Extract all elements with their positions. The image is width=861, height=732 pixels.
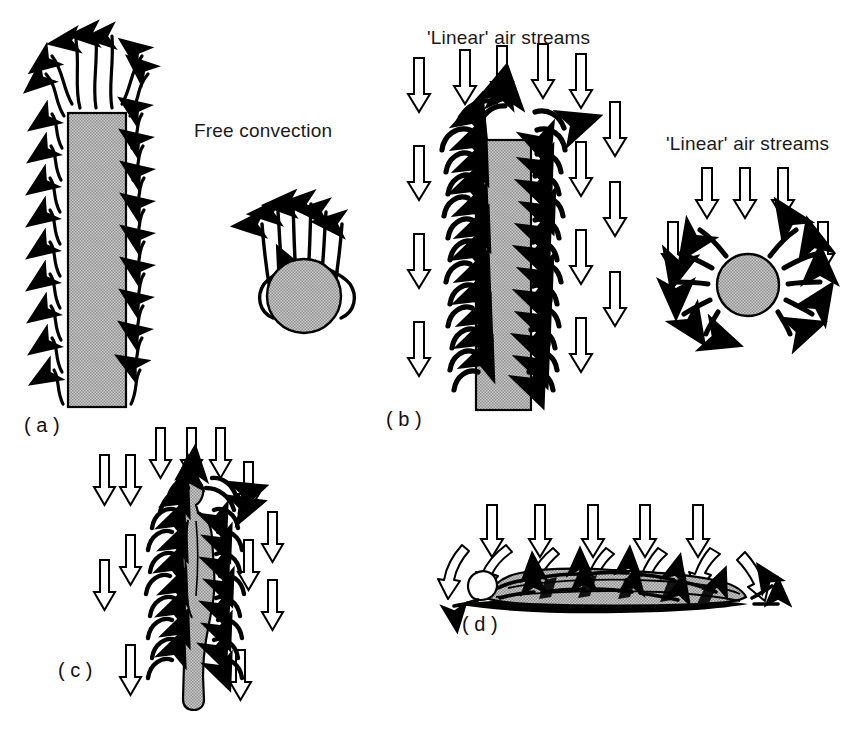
hollow-arrow [94, 455, 115, 505]
panel-a-plume-streamlines [76, 34, 112, 108]
hollow-arrow [604, 182, 626, 236]
hollow-arrow [812, 222, 834, 272]
hollow-arrow [570, 142, 592, 196]
hollow-arrow [238, 462, 259, 512]
hollow-arrow [696, 168, 718, 218]
hollow-arrow [408, 58, 430, 112]
hollow-arrow [181, 428, 202, 478]
panel-tag-d: ( d ) [462, 613, 498, 636]
hollow-arrow [150, 428, 171, 478]
panel-a-slab-group [46, 34, 148, 407]
hollow-arrow [491, 46, 513, 100]
linear-air-streams-label-b: 'Linear' air streams [427, 27, 590, 49]
panel-c-standing-human-figure [177, 479, 214, 710]
hollow-arrow [120, 455, 141, 505]
hollow-arrow [582, 505, 604, 557]
hollow-arrow [634, 505, 656, 557]
hollow-arrow [408, 146, 430, 200]
hollow-arrow [687, 505, 709, 557]
hollow-arrow [210, 428, 231, 478]
panel-a-sphere-group [260, 204, 355, 333]
hollow-arrow [604, 102, 626, 156]
hollow-arrow [454, 50, 476, 104]
hollow-arrow [529, 505, 551, 557]
panel-b-vertical-slab [476, 140, 531, 410]
hollow-arrow [262, 512, 283, 562]
hollow-arrow-deflected [438, 545, 469, 599]
hollow-arrow [570, 318, 592, 372]
hollow-arrow [662, 222, 684, 272]
hollow-arrow [570, 230, 592, 284]
panel-tag-c: ( c ) [58, 659, 92, 682]
hollow-arrow [120, 645, 141, 695]
panel-tag-b: ( b ) [386, 408, 422, 431]
airflow-diagram-figure: Free convection 'Linear' air streams 'Li… [0, 0, 861, 732]
hollow-arrow [604, 272, 626, 326]
hollow-arrow [772, 168, 794, 218]
hollow-arrow [570, 54, 592, 108]
hollow-arrow [408, 322, 430, 376]
panel-a-sphere [267, 259, 341, 333]
panel-b-sphere [717, 254, 779, 316]
hollow-arrow [734, 168, 756, 218]
hollow-arrow [120, 535, 141, 585]
panel-a-vertical-slab [68, 113, 126, 407]
hollow-arrow [262, 580, 283, 630]
free-convection-label: Free convection [194, 120, 332, 142]
hollow-arrow [532, 44, 554, 98]
panel-b-sphere-group [662, 168, 834, 334]
linear-air-streams-label-b2: 'Linear' air streams [666, 133, 829, 155]
hollow-arrow [94, 560, 115, 610]
panel-tag-a: ( a ) [24, 414, 60, 437]
panel-d-hollow-arrows [481, 505, 709, 557]
hollow-arrow [408, 234, 430, 288]
diagram-canvas [0, 0, 861, 732]
